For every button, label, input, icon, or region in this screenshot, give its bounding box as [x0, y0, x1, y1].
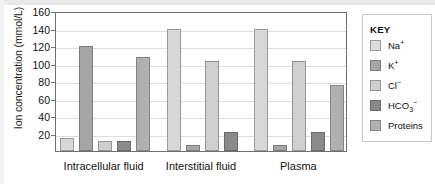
bar-na-interstitial: [167, 29, 181, 152]
y-axis-tick-label: 40: [14, 111, 50, 123]
y-axis-tick-label: 100: [14, 59, 50, 71]
legend-item-cl: Cl−: [370, 79, 401, 92]
bar-cl-interstitial: [205, 61, 219, 151]
legend-item-na: Na+: [370, 39, 404, 52]
gridline: [56, 31, 346, 32]
bar-hco3-interstitial: [224, 132, 238, 151]
x-axis-label: Plasma: [280, 160, 317, 172]
legend-item-hco3: HCO3−: [370, 99, 417, 112]
y-axis-tick-label: 140: [14, 24, 50, 36]
legend-key: KEY Na+K+Cl−HCO3−Proteins: [362, 14, 432, 142]
bar-hco3-plasma: [311, 132, 325, 151]
bar-k-intracellular: [79, 46, 93, 151]
legend-item-label: Cl−: [388, 79, 401, 91]
y-axis-tick-label: 160: [14, 6, 50, 18]
y-axis-tick-label: 80: [14, 76, 50, 88]
x-axis-label: Intracellular fluid: [64, 160, 144, 172]
bar-na-intracellular: [60, 138, 74, 151]
legend-item-label: K+: [388, 59, 398, 71]
y-axis-tick-mark: [51, 30, 55, 31]
bar-hco3-intracellular: [117, 141, 131, 151]
legend-item-label: Proteins: [388, 120, 423, 131]
chart-page: Ion concentration (mmol/L) 2040608010012…: [0, 0, 435, 184]
legend-title: KEY: [370, 24, 390, 35]
y-axis-tick-mark: [51, 12, 55, 13]
legend-item-proteins: Proteins: [370, 119, 423, 132]
gridline: [56, 48, 346, 49]
bar-chart: Ion concentration (mmol/L) 2040608010012…: [0, 4, 352, 184]
bar-proteins-intracellular: [136, 57, 150, 151]
y-axis-tick-mark: [51, 65, 55, 66]
plot-area: [55, 12, 347, 152]
bar-proteins-plasma: [330, 85, 344, 152]
legend-swatch-icon: [370, 120, 381, 131]
y-axis-tick-mark: [51, 47, 55, 48]
legend-swatch-icon: [370, 80, 381, 91]
bar-k-interstitial: [186, 145, 200, 151]
legend-swatch-icon: [370, 60, 381, 71]
bar-k-plasma: [273, 145, 287, 151]
y-axis-tick-mark: [51, 135, 55, 136]
y-axis-tick-mark: [51, 100, 55, 101]
legend-item-k: K+: [370, 59, 398, 72]
y-axis-tick-label: 120: [14, 41, 50, 53]
bar-cl-intracellular: [98, 141, 112, 151]
bar-na-plasma: [254, 29, 268, 152]
legend-item-label: Na+: [388, 39, 404, 51]
y-axis-tick-label: 20: [14, 129, 50, 141]
bar-cl-plasma: [292, 61, 306, 151]
y-axis-tick-mark: [51, 82, 55, 83]
legend-swatch-icon: [370, 40, 381, 51]
x-axis-label: Interstitial fluid: [166, 160, 236, 172]
y-axis-tick-label: 60: [14, 94, 50, 106]
y-axis-tick-mark: [51, 117, 55, 118]
legend-item-label: HCO3−: [388, 99, 417, 111]
legend-swatch-icon: [370, 100, 381, 111]
